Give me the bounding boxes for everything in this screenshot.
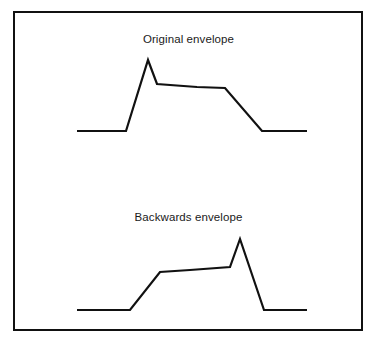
panel-caption-original: Original envelope [0,33,377,46]
panel-caption-backwards: Backwards envelope [0,211,377,224]
figure-border-frame [13,11,363,331]
figure-root: Original envelope Backwards envelope [0,0,377,342]
